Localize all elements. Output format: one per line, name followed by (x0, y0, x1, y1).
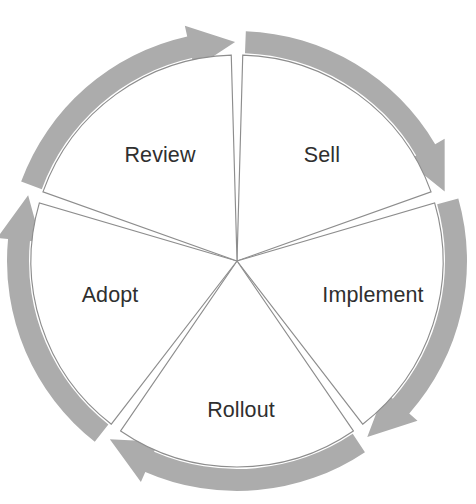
stage-label-review: Review (124, 143, 195, 168)
cycle-diagram: SellImplementRolloutAdoptReview (0, 0, 476, 504)
stage-label-rollout: Rollout (207, 398, 275, 423)
stage-label-adopt: Adopt (82, 283, 139, 308)
stage-label-sell: Sell (304, 143, 340, 168)
cycle-diagram-canvas (0, 0, 476, 504)
stage-label-implement: Implement (322, 283, 423, 308)
